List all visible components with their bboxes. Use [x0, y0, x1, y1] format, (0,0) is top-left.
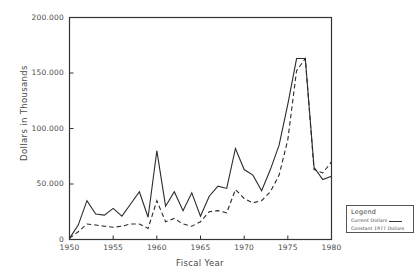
legend-item-current-dollars: Current Dollars	[351, 217, 410, 224]
line-chart-figure: Dollars in Thousands 050.000100.000150.0…	[0, 0, 420, 278]
x-axis-tick-label: 1960	[142, 243, 172, 252]
x-axis-tick-label: 1980	[317, 243, 347, 252]
legend-item-label: Current Dollars	[351, 218, 387, 224]
x-axis-tick-label: 1955	[98, 243, 128, 252]
x-axis-tick-labels: 1950195519601965197019751980	[0, 0, 420, 278]
x-axis-tick-label: 1970	[229, 243, 259, 252]
x-axis-tick-label: 1950	[55, 243, 85, 252]
legend-item-constant-1977-dollars: Constant 1977 Dollars	[351, 225, 410, 232]
x-axis-tick-label: 1965	[186, 243, 216, 252]
x-axis-tick-label: 1975	[273, 243, 303, 252]
x-axis-title: Fiscal Year	[69, 258, 331, 268]
legend-swatch-solid-icon	[389, 219, 402, 223]
legend: Legend Current Dollars Constant 1977 Dol…	[346, 205, 414, 233]
legend-item-label: Constant 1977 Dollars	[351, 226, 404, 232]
legend-title: Legend	[351, 208, 410, 216]
